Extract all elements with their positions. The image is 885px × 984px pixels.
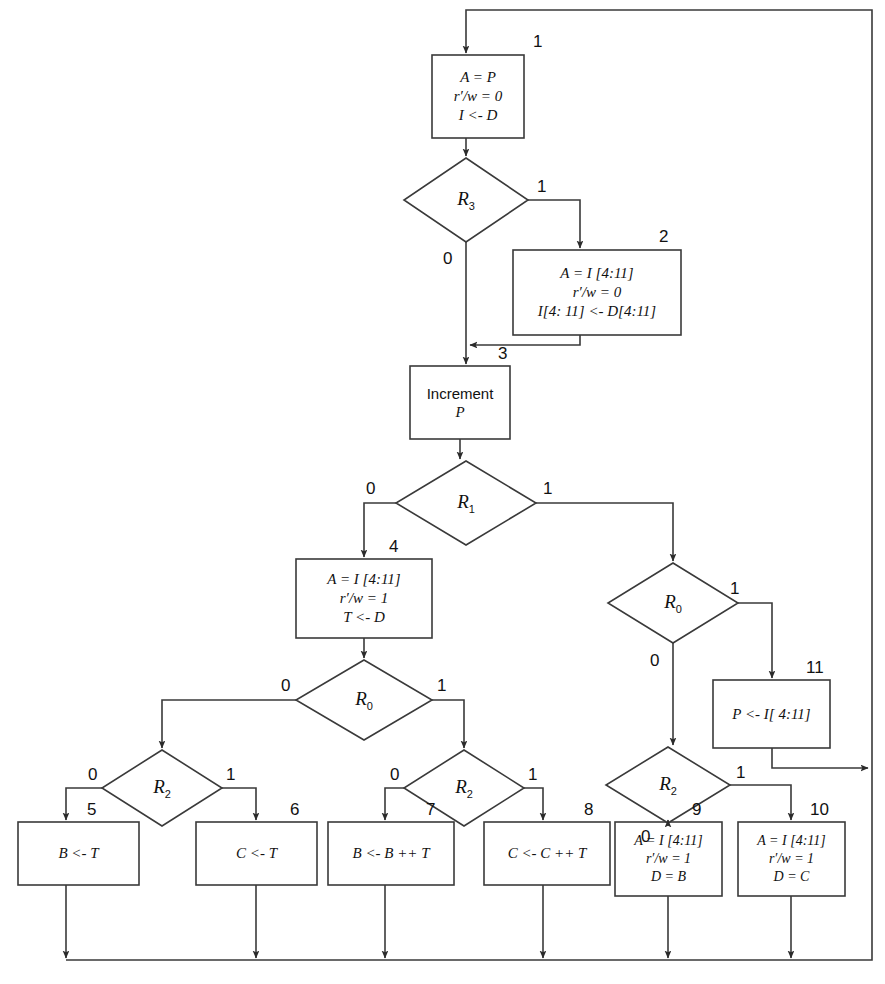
- wire-r0right-one-to-box11: [738, 603, 772, 678]
- box-1-text: A = P r′/w = 0 I <- D: [454, 68, 502, 125]
- box-6-text: C <- T: [236, 844, 277, 863]
- box-2-text: A = I [4:11] r′/w = 0 I[4: 11] <- D[4:11…: [538, 264, 656, 321]
- box-2-line-3: I[4: 11] <- D[4:11]: [538, 302, 656, 321]
- decision-r2-left[interactable]: R2: [102, 750, 222, 826]
- decision-r2-mid[interactable]: R2: [404, 750, 524, 826]
- decision-r2-left-branch-one: 1: [226, 764, 235, 785]
- box-10-text: A = I [4:11] r′/w = 1 D = C: [757, 832, 825, 886]
- wire-r0mid-one-to-r2mid: [432, 700, 464, 748]
- wire-r3-one-to-box2: [528, 200, 580, 248]
- wire-box2-to-merge: [470, 335, 580, 345]
- box-11-body: P <- I[ 4:11]: [713, 680, 830, 748]
- wire-r2mid-one-to-box8: [524, 788, 543, 820]
- wire-r2right-one-to-box10: [730, 785, 791, 820]
- box-2-number: 2: [659, 226, 668, 247]
- box-6-line-1: C <- T: [236, 844, 277, 863]
- box-4-line-1: A = I [4:11]: [327, 570, 400, 589]
- decision-r0-mid-branch-one: 1: [437, 675, 446, 696]
- box-10-line-1: A = I [4:11]: [757, 832, 825, 850]
- decision-r1-name: R: [457, 491, 469, 512]
- box-3-line-2: P: [427, 403, 494, 422]
- decision-r2-left-branch-zero: 0: [88, 764, 97, 785]
- box-4-text: A = I [4:11] r′/w = 1 T <- D: [327, 570, 400, 627]
- decision-r2-mid-branch-zero: 0: [390, 764, 399, 785]
- wire-r2mid-zero-to-box7: [385, 788, 404, 820]
- decision-r2-right-sub: 2: [671, 785, 677, 797]
- box-4-body: A = I [4:11] r′/w = 1 T <- D: [296, 559, 432, 638]
- box-7-number: 7: [426, 799, 435, 820]
- box-5-line-1: B <- T: [58, 844, 98, 863]
- box-8-body: C <- C ++ T: [484, 822, 610, 885]
- box-8-number: 8: [584, 799, 593, 820]
- decision-r0-right-branch-one: 1: [730, 578, 739, 599]
- decision-r2-mid-branch-one: 1: [528, 764, 537, 785]
- box-3-number: 3: [498, 343, 507, 364]
- wire-r2left-one-to-box6: [222, 788, 256, 820]
- decision-r2-mid-name: R: [455, 776, 467, 797]
- box-10-number: 10: [810, 799, 829, 820]
- decision-r1[interactable]: R1: [396, 461, 536, 545]
- box-1-line-2: r′/w = 0: [454, 87, 502, 106]
- decision-r0-right[interactable]: R0: [608, 563, 738, 643]
- decision-r3-sub: 3: [469, 200, 475, 212]
- wire-r1-one-to-r0right: [536, 503, 673, 561]
- decision-r2-right[interactable]: R2: [606, 747, 730, 823]
- decision-r1-sub: 1: [469, 503, 475, 515]
- box-8-line-1: C <- C ++ T: [508, 844, 587, 863]
- box-1-number: 1: [533, 31, 542, 52]
- box-9-line-1: A = I [4:11]: [634, 832, 702, 850]
- decision-r1-branch-zero: 0: [366, 478, 375, 499]
- box-4-line-3: T <- D: [327, 608, 400, 627]
- box-3-line-1: Increment: [427, 384, 494, 403]
- decision-r3[interactable]: R3: [404, 158, 528, 242]
- decision-r2-left-sub: 2: [165, 788, 171, 800]
- wire-r0mid-zero-to-r2left: [162, 700, 296, 748]
- decision-r2-right-name: R: [659, 773, 671, 794]
- box-3-body: Increment P: [410, 366, 510, 439]
- box-4-line-2: r′/w = 1: [327, 589, 400, 608]
- box-1-line-3: I <- D: [454, 106, 502, 125]
- decision-r2-left-name: R: [153, 776, 165, 797]
- box-11-line-1: P <- I[ 4:11]: [732, 705, 810, 724]
- wire-box11-to-rail: [772, 748, 868, 768]
- decision-r0-right-name: R: [664, 591, 676, 612]
- decision-r2-right-label: R2: [659, 773, 677, 797]
- box-10-line-2: r′/w = 1: [757, 850, 825, 868]
- decision-r2-mid-sub: 2: [467, 788, 473, 800]
- decision-r3-branch-one: 1: [537, 176, 546, 197]
- box-5-text: B <- T: [58, 844, 98, 863]
- decision-r0-mid-label: R0: [355, 688, 373, 712]
- decision-r0-mid-branch-zero: 0: [281, 675, 290, 696]
- box-2-line-1: A = I [4:11]: [538, 264, 656, 283]
- box-2-line-2: r′/w = 0: [538, 283, 656, 302]
- box-7-body: B <- B ++ T: [328, 822, 454, 885]
- box-7-line-1: B <- B ++ T: [352, 844, 429, 863]
- box-9-body: A = I [4:11] r′/w = 1 D = B: [615, 822, 722, 896]
- decision-r0-right-label: R0: [664, 591, 682, 615]
- box-4-number: 4: [389, 536, 398, 557]
- box-7-text: B <- B ++ T: [352, 844, 429, 863]
- box-5-body: B <- T: [18, 822, 139, 885]
- decision-r3-branch-zero: 0: [443, 248, 452, 269]
- decision-r2-mid-label: R2: [455, 776, 473, 800]
- box-9-number: 9: [692, 799, 701, 820]
- box-10-body: A = I [4:11] r′/w = 1 D = C: [738, 822, 845, 896]
- box-6-body: C <- T: [196, 822, 317, 885]
- decision-r2-right-branch-one: 1: [736, 762, 745, 783]
- box-5-number: 5: [87, 799, 96, 820]
- box-11-number: 11: [806, 657, 824, 678]
- decision-r0-mid-sub: 0: [367, 700, 373, 712]
- box-9-line-2: r′/w = 1: [634, 850, 702, 868]
- decision-r0-mid[interactable]: R0: [296, 660, 432, 740]
- box-2-body: A = I [4:11] r′/w = 0 I[4: 11] <- D[4:11…: [513, 250, 681, 335]
- box-1-line-1: A = P: [454, 68, 502, 87]
- decision-r0-right-branch-zero: 0: [650, 650, 659, 671]
- box-9-line-3: D = B: [634, 868, 702, 886]
- flowchart-canvas: 1 A = P r′/w = 0 I <- D R3 1 0 2 A = I […: [0, 0, 885, 984]
- box-6-number: 6: [290, 799, 299, 820]
- decision-r1-branch-one: 1: [543, 478, 552, 499]
- box-3-text: Increment P: [427, 384, 494, 422]
- wire-r2left-zero-to-box5: [66, 788, 102, 820]
- box-10-line-3: D = C: [757, 868, 825, 886]
- decision-r1-label: R1: [457, 491, 475, 515]
